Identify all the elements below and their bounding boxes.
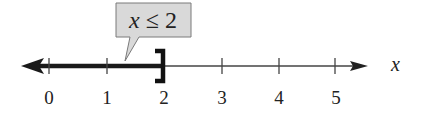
tick-label-3: 3 (217, 87, 227, 108)
tick-label-2: 2 (159, 87, 169, 108)
callout-inequality-text: x≤2 (128, 7, 177, 33)
callout-value: 2 (165, 7, 177, 33)
axis-variable-label: x (390, 53, 400, 75)
tick-label-1: 1 (102, 87, 112, 108)
tick-label-4: 4 (274, 87, 284, 108)
inequality-callout: x≤2 (116, 3, 191, 61)
tick-label-0: 0 (44, 87, 54, 108)
callout-variable: x (128, 7, 140, 33)
callout-operator: ≤ (146, 7, 159, 33)
number-line-diagram: 0 1 2 3 4 5 x x≤2 (0, 0, 421, 116)
tick-label-5: 5 (331, 87, 341, 108)
